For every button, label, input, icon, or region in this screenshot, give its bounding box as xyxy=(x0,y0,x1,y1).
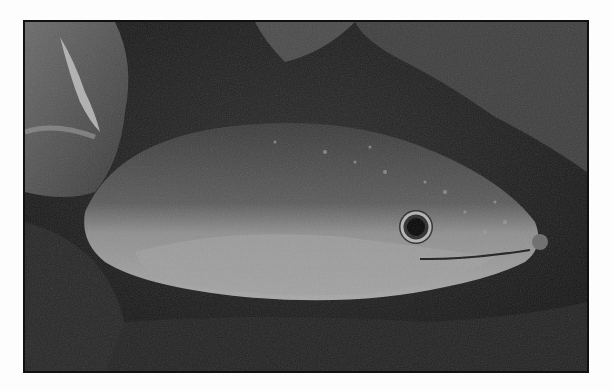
eel-photo xyxy=(23,20,589,373)
eel-photo-illustration xyxy=(25,22,587,371)
